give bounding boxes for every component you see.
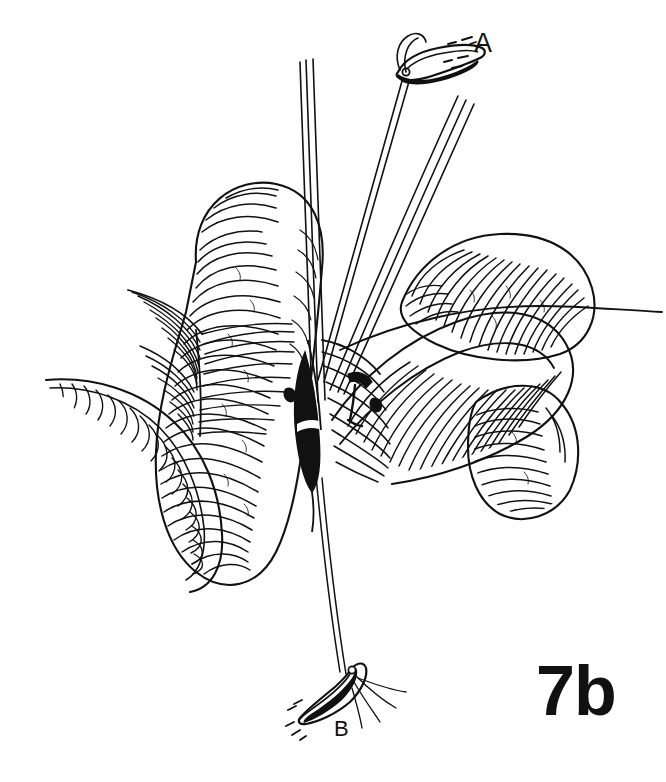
label-a: A <box>474 30 492 57</box>
label-b: B <box>334 718 349 740</box>
figure-number-label: 7b <box>536 656 616 726</box>
